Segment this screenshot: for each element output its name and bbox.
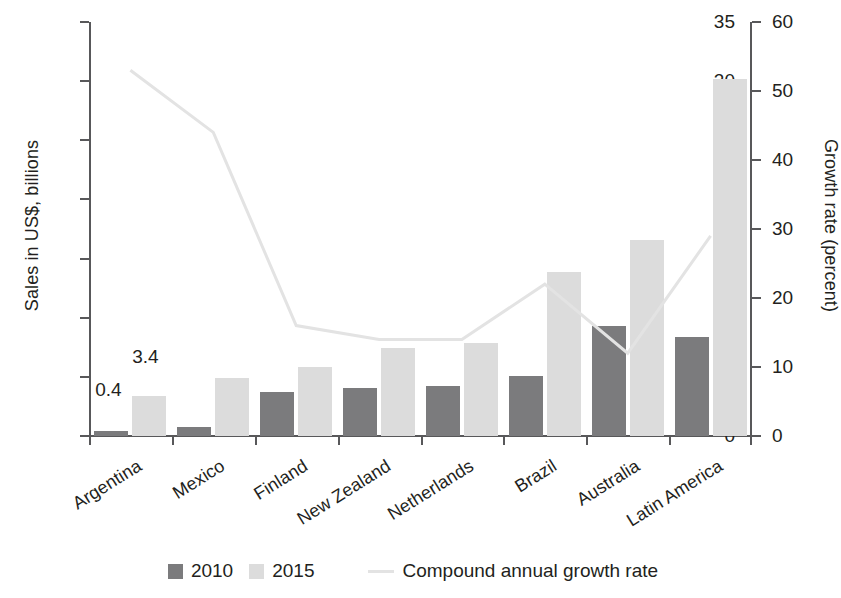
bar-2015 [298, 367, 332, 436]
bar-2010 [426, 386, 460, 436]
bar-2010 [177, 427, 211, 436]
bar-2010 [94, 431, 128, 436]
bar-value-label-2015: 3.4 [132, 346, 158, 368]
x-axis-tick [172, 436, 174, 445]
y-axis-right-tick-label: 50 [772, 81, 832, 100]
y-axis-left-line [89, 22, 91, 436]
y-axis-left-tick [80, 317, 89, 319]
x-axis-tick [669, 436, 671, 445]
y-axis-left-tick [80, 21, 89, 23]
legend-item[interactable]: Compound annual growth rate [368, 560, 658, 582]
y-axis-left-tick-label: 35 [675, 12, 735, 31]
x-axis-tick [421, 436, 423, 445]
dark-square-swatch [168, 564, 183, 579]
y-axis-left-tick [80, 376, 89, 378]
x-axis-tick [89, 436, 91, 445]
y-axis-right-tick-label: 20 [772, 288, 832, 307]
bar-2015 [215, 378, 249, 436]
y-axis-right-tick [752, 297, 761, 299]
bar-2015 [630, 240, 664, 436]
y-axis-left-tick [80, 139, 89, 141]
y-axis-left-tick [80, 258, 89, 260]
bar-2015 [713, 79, 747, 436]
y-axis-right-tick [752, 435, 761, 437]
legend-item-label: Compound annual growth rate [402, 560, 658, 582]
x-axis-tick [750, 436, 752, 445]
x-axis-tick [255, 436, 257, 445]
bar-2015 [547, 272, 581, 436]
legend-item[interactable]: 2015 [249, 560, 314, 582]
chart-legend: 20102015Compound annual growth rate [0, 560, 826, 582]
y-axis-left-tick [80, 198, 89, 200]
y-axis-right-tick-label: 60 [772, 12, 832, 31]
y-axis-left-tick [80, 435, 89, 437]
bar-2010 [260, 392, 294, 436]
y-axis-right-tick-label: 0 [772, 426, 832, 445]
x-axis-tick [503, 436, 505, 445]
bar-2010 [592, 326, 626, 436]
y-axis-right-tick-label: 10 [772, 357, 832, 376]
bar-2015 [464, 343, 498, 436]
y-axis-right-tick [752, 21, 761, 23]
y-axis-right-tick-label: 40 [772, 150, 832, 169]
y-axis-right-tick [752, 366, 761, 368]
legend-item-label: 2015 [272, 560, 314, 582]
y-axis-right-tick-label: 30 [772, 219, 832, 238]
y-axis-right-tick [752, 228, 761, 230]
light-square-swatch [249, 564, 264, 579]
light-line-swatch [368, 570, 394, 573]
bar-2010 [343, 388, 377, 436]
bar-2010 [675, 337, 709, 436]
cagr-polyline [130, 70, 710, 353]
y-axis-left-tick [80, 80, 89, 82]
x-axis-tick [586, 436, 588, 445]
x-axis-tick [338, 436, 340, 445]
bar-2015 [132, 396, 166, 436]
legend-item-label: 2010 [191, 560, 233, 582]
bar-value-label-2010: 0.4 [95, 379, 121, 401]
bar-2015 [381, 348, 415, 436]
plot-area: 05101520253035 0102030405060 0.43.4 Arge… [89, 22, 752, 436]
y-axis-left-title: Sales in US$, billions [22, 76, 43, 376]
y-axis-right-tick [752, 159, 761, 161]
bar-2010 [509, 376, 543, 436]
legend-item[interactable]: 2010 [168, 560, 233, 582]
y-axis-right-tick [752, 90, 761, 92]
